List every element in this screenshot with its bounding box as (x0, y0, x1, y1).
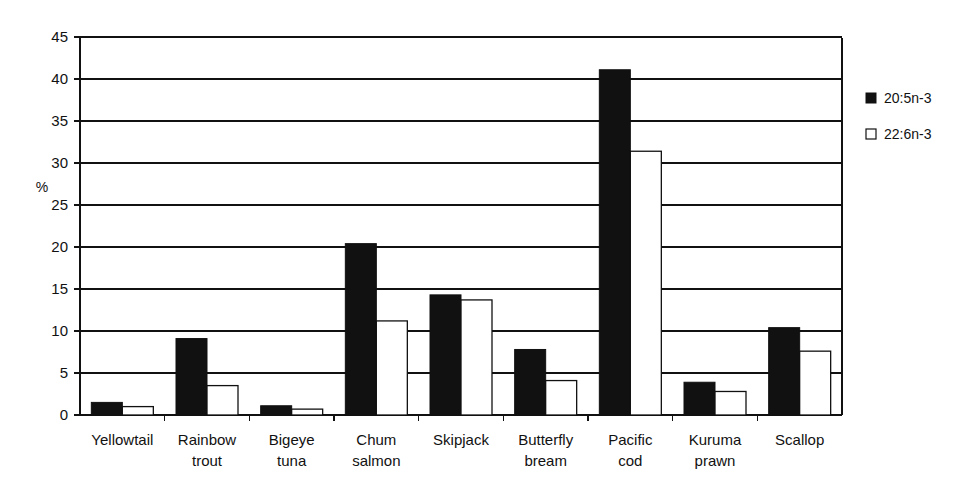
category-label: Chum (356, 431, 396, 448)
y-tick-label: 30 (51, 154, 68, 171)
y-tick-label: 10 (51, 322, 68, 339)
bar (376, 321, 407, 415)
bar (515, 349, 546, 415)
bar (292, 409, 323, 415)
filled-square-icon (866, 93, 876, 103)
category-label: trout (192, 452, 223, 469)
legend-label: 22:6n-3 (884, 126, 932, 142)
category-label: Kuruma (689, 431, 742, 448)
y-tick-label: 45 (51, 28, 68, 45)
category-label: prawn (695, 452, 736, 469)
bar-chart: 051015202530354045 % YellowtailRainbowtr… (0, 0, 965, 484)
y-tick-label: 25 (51, 196, 68, 213)
category-label: Pacific (608, 431, 653, 448)
category-label: Bigeye (269, 431, 315, 448)
bar (684, 382, 715, 415)
bar (176, 339, 207, 415)
bar (345, 244, 376, 415)
category-label: cod (618, 452, 642, 469)
category-label: salmon (352, 452, 400, 469)
bar (715, 391, 746, 415)
bar (630, 151, 661, 415)
category-label: tuna (277, 452, 307, 469)
bar (800, 351, 831, 415)
y-tick-label: 40 (51, 70, 68, 87)
bar (430, 295, 461, 415)
bar (122, 407, 153, 415)
category-label: bream (524, 452, 567, 469)
legend-label: 20:5n-3 (884, 90, 932, 106)
category-label: Scallop (775, 431, 824, 448)
bar (207, 386, 238, 415)
y-tick-label: 5 (60, 364, 68, 381)
y-tick-label: 15 (51, 280, 68, 297)
bar (546, 381, 577, 415)
chart-container: 051015202530354045 % YellowtailRainbowtr… (0, 0, 965, 484)
category-label: Rainbow (178, 431, 237, 448)
category-label: Butterfly (518, 431, 574, 448)
bar (769, 328, 800, 415)
bar (599, 70, 630, 415)
y-tick-label: 20 (51, 238, 68, 255)
bar (91, 402, 122, 415)
y-axis-title: % (36, 179, 48, 195)
category-label: Skipjack (433, 431, 489, 448)
y-tick-label: 0 (60, 406, 68, 423)
category-label: Yellowtail (91, 431, 153, 448)
bar (461, 300, 492, 415)
y-tick-label: 35 (51, 112, 68, 129)
bar (261, 406, 292, 415)
open-square-icon (866, 129, 876, 139)
